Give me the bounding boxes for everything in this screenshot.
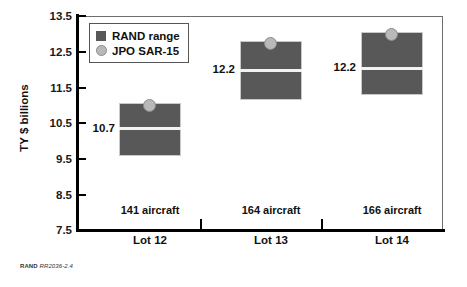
legend-item-jpo-sar[interactable]: JPO SAR-15 <box>96 43 180 58</box>
y-tick-label-7-5: 7.5 <box>36 224 72 236</box>
range-bar-lot14[interactable] <box>361 32 423 95</box>
footnote-id: RR2036-2.4 <box>40 263 73 269</box>
category-label-lot12: Lot 12 <box>100 234 200 246</box>
category-sublabel-lot14: 166 aircraft <box>342 204 442 216</box>
y-tick-label-wrap-8-5: 8.5 <box>32 189 72 201</box>
y-tick-label-wrap-7-5: 7.5 <box>32 224 72 236</box>
y-tick-label-wrap-11-5: 11.5 <box>32 82 72 94</box>
y-tick-9-5 <box>79 158 86 160</box>
jpo-sar-marker-lot14[interactable] <box>385 28 398 41</box>
range-bar-midline-lot12 <box>119 127 181 130</box>
square-swatch-icon <box>96 31 106 41</box>
category-sublabel-lot13: 164 aircraft <box>221 204 321 216</box>
y-tick-label-wrap-12-5: 12.5 <box>32 46 72 58</box>
range-bar-midline-lot14 <box>361 67 423 70</box>
y-tick-label-10-5: 10.5 <box>36 117 72 129</box>
y-tick-label-9-5: 9.5 <box>36 153 72 165</box>
y-tick-label-11-5: 11.5 <box>36 82 72 94</box>
y-tick-12-5 <box>79 51 86 53</box>
y-tick-label-12-5: 12.5 <box>36 46 72 58</box>
chart-figure: TY $ billions 13.5 12.5 11.5 10.5 9.5 8.… <box>0 0 467 287</box>
jpo-sar-marker-lot12[interactable] <box>143 99 156 112</box>
circle-swatch-icon <box>96 45 107 56</box>
category-label-lot14: Lot 14 <box>342 234 442 246</box>
value-label-lot13: 12.2 <box>203 63 235 75</box>
y-tick-label-wrap-13-5: 13.5 <box>32 10 72 22</box>
chart-legend: RAND range JPO SAR-15 <box>89 23 189 63</box>
legend-label-jpo-sar: JPO SAR-15 <box>112 45 179 57</box>
y-tick-8-5 <box>79 194 86 196</box>
legend-item-rand-range[interactable]: RAND range <box>96 28 180 43</box>
y-tick-label-13-5: 13.5 <box>36 10 72 22</box>
legend-label-rand-range: RAND range <box>112 30 180 42</box>
y-tick-11-5 <box>79 87 86 89</box>
footnote-source: RAND <box>20 263 38 269</box>
y-axis-title: TY $ billions <box>18 48 30 188</box>
y-tick-label-8-5: 8.5 <box>36 189 72 201</box>
y-tick-13-5 <box>79 15 86 17</box>
x-axis-line <box>76 229 445 232</box>
category-sublabel-lot12: 141 aircraft <box>100 204 200 216</box>
category-label-lot13: Lot 13 <box>221 234 321 246</box>
jpo-sar-marker-lot13[interactable] <box>264 37 277 50</box>
value-label-lot12: 10.7 <box>83 122 115 134</box>
figure-footnote: RAND RR2036-2.4 <box>20 263 73 269</box>
x-tick-separator-2 <box>321 219 323 230</box>
value-label-lot14: 12.2 <box>324 61 356 73</box>
x-tick-separator-1 <box>200 219 202 230</box>
y-tick-label-wrap-9-5: 9.5 <box>32 153 72 165</box>
range-bar-midline-lot13 <box>240 69 302 72</box>
y-tick-label-wrap-10-5: 10.5 <box>32 117 72 129</box>
